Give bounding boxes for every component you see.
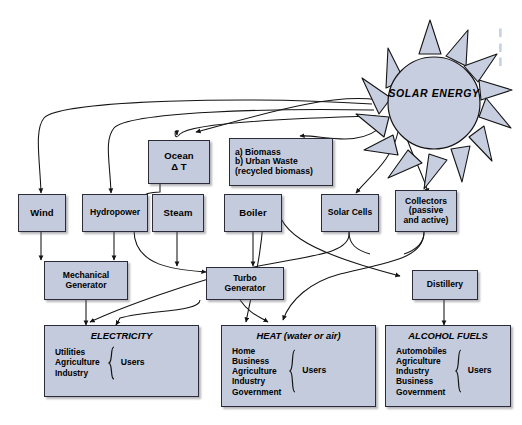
node-turbo-generator[interactable]: Turbo Generator [206,267,284,300]
sun-label: SOLAR ENERGY [374,84,494,104]
sink-alcohol-fuels[interactable]: ALCOHOL FUELS Automobiles Agriculture In… [385,325,511,407]
sink-electricity[interactable]: ELECTRICITY Utilities Agriculture Indust… [44,325,199,397]
sun-graphic [356,20,512,189]
node-wind[interactable]: Wind [18,194,66,232]
sink-electricity-brace [108,346,116,380]
sink-heat-item-4: Government [232,387,281,397]
diagram-canvas: SOLAR ENERGY Ocean Δ T a) Biomass b) Urb… [0,0,522,425]
sink-alcohol-fuels-item-0: Automobiles [396,346,447,356]
sink-alcohol-fuels-item-1: Agriculture [396,356,447,366]
sink-electricity-item-2: Industry [55,368,100,378]
sink-alcohol-fuels-item-2: Industry [396,366,447,376]
node-collectors[interactable]: Collectors (passive and active) [395,190,457,232]
node-boiler-label: Boiler [239,208,267,219]
sink-heat-brace [289,349,297,393]
node-hydropower[interactable]: Hydropower [82,194,148,232]
node-mechanical-generator[interactable]: Mechanical Generator [44,261,128,300]
sink-alcohol-fuels-users: Users [468,366,492,376]
sink-heat-item-2: Agriculture [232,366,281,376]
sink-electricity-title: ELECTRICITY [45,331,198,342]
sun-label-line2: ENERGY [432,87,480,99]
sink-heat-item-3: Industry [232,376,281,386]
margin-clipped-text: ▌ ▌ ▌ [499,26,521,70]
sink-alcohol-fuels-items: Automobiles Agriculture Industry Busines… [396,346,447,397]
margin-line-3: ▌ [499,55,521,70]
sink-alcohol-fuels-title: ALCOHOL FUELS [386,331,510,342]
node-turbo-generator-line2: Generator [224,284,265,294]
node-ocean-line2: Δ T [164,162,194,173]
sink-heat-item-1: Business [232,356,281,366]
node-mechanical-generator-line2: Generator [63,281,109,291]
node-steam-label: Steam [163,208,192,219]
node-boiler[interactable]: Boiler [224,194,282,232]
sink-electricity-item-0: Utilities [55,347,100,357]
sink-electricity-item-1: Agriculture [55,357,100,367]
sink-heat-title: HEAT (water or air) [222,331,375,342]
node-biomass[interactable]: a) Biomass b) Urban Waste (recycled biom… [229,138,333,186]
node-ocean[interactable]: Ocean Δ T [148,140,210,184]
margin-line-2: ▌ [499,41,521,56]
margin-line-1: ▌ [499,26,521,41]
node-wind-label: Wind [30,208,54,219]
node-collectors-line3: and active) [404,216,449,226]
node-steam[interactable]: Steam [152,194,204,232]
sink-heat[interactable]: HEAT (water or air) Home Business Agricu… [221,325,376,407]
node-distillery-label: Distillery [427,280,463,290]
sink-heat-users: Users [302,366,326,376]
sink-alcohol-fuels-brace [455,349,463,393]
node-hydropower-label: Hydropower [90,208,140,218]
sun-label-line1: SOLAR [388,87,428,99]
sink-heat-items: Home Business Agriculture Industry Gover… [232,346,281,397]
node-distillery[interactable]: Distillery [412,270,478,300]
sink-alcohol-fuels-item-4: Government [396,387,447,397]
sink-electricity-users: Users [121,358,145,368]
node-solar-cells[interactable]: Solar Cells [321,194,379,232]
sink-heat-item-0: Home [232,346,281,356]
sink-electricity-items: Utilities Agriculture Industry [55,347,100,378]
node-biomass-line3: (recycled biomass) [235,167,332,177]
node-solar-cells-label: Solar Cells [328,208,372,218]
sink-alcohol-fuels-item-3: Business [396,376,447,386]
